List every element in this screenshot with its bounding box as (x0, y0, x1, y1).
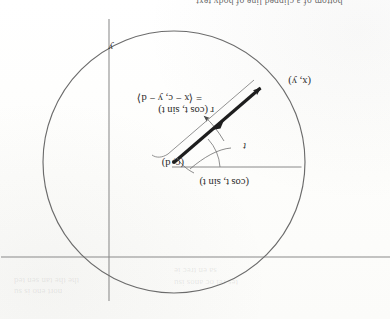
center-point-label: (c, d) (162, 157, 184, 169)
vector-equation-line-1: r (cos t, sin t) (137, 104, 214, 116)
y-axis-label: y (109, 42, 113, 53)
vector-equation: r (cos t, sin t) = ⟨x − c, y − d⟩ (137, 93, 214, 117)
angle-label: t (243, 141, 246, 152)
scanned-page: the the tan sen ted nort eno is su sa en… (0, 0, 390, 319)
unit-vector-brace (190, 148, 231, 169)
unit-vector-label: (cos t, sin t) (199, 176, 249, 188)
figure-rotated-container: (c, d) (x, y) (cos t, sin t) t y r (cos … (0, 0, 390, 319)
figure-graphics (0, 0, 390, 319)
vector-equation-line-2: = ⟨x − c, y − d⟩ (137, 93, 202, 105)
terminal-point-label: (x, y) (288, 75, 311, 87)
